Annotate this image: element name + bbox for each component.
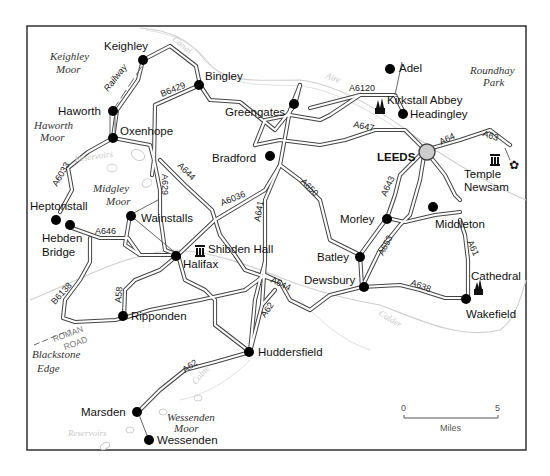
label-a646: A646	[95, 226, 116, 236]
label-ripponden: Ripponden	[131, 310, 187, 322]
town-dot-haworth[interactable]	[108, 106, 118, 116]
label-haworth-moor-1: Haworth	[33, 119, 74, 131]
label-blackstone-1: Blackstone	[32, 348, 80, 360]
town-dot-bradford[interactable]	[265, 151, 275, 161]
label-wessenden: Wessenden	[157, 434, 218, 446]
map: ✿ Keighley Bingley Haworth Oxenhope Gree…	[0, 0, 550, 476]
town-dot-oxenhope[interactable]	[108, 133, 118, 143]
label-heptonstall: Heptonstall	[30, 200, 88, 212]
label-kirkstall-abbey: Kirkstall Abbey	[387, 94, 463, 106]
town-dot-wainstalls[interactable]	[126, 211, 136, 221]
town-dot-huddersfield[interactable]	[244, 347, 254, 357]
town-dot-headingley[interactable]	[398, 109, 408, 119]
kirkstall-abbey-icon	[375, 98, 385, 114]
label-reservoirs-bottom: Reservoirs	[67, 428, 107, 438]
town-dot-heptonstall[interactable]	[51, 215, 61, 225]
label-leeds: LEEDS	[377, 151, 416, 163]
label-newsam: Newsam	[464, 181, 509, 193]
label-middleton: Middleton	[435, 218, 485, 230]
label-oxenhope: Oxenhope	[120, 125, 173, 137]
town-dot-bingley[interactable]	[194, 80, 204, 90]
town-dot-ripponden[interactable]	[118, 311, 128, 321]
scale-unit: Miles	[440, 423, 462, 433]
label-huddersfield: Huddersfield	[258, 346, 323, 358]
label-wakefield: Wakefield	[466, 308, 516, 320]
label-keighley-moor-1: Keighley	[49, 50, 89, 62]
label-reservoirs-top: Reservoirs	[73, 149, 114, 164]
town-dot-marsden[interactable]	[132, 407, 142, 417]
label-marsden: Marsden	[81, 406, 126, 418]
label-a653: A653	[376, 234, 395, 257]
town-dot-wessenden[interactable]	[144, 435, 154, 445]
label-hebden: Hebden	[42, 232, 82, 244]
label-morley: Morley	[340, 213, 375, 225]
label-keighley: Keighley	[104, 40, 148, 52]
label-blackstone-2: Edge	[36, 362, 60, 374]
scale-bar: 0 5 Miles	[401, 403, 500, 433]
label-roundhay-2: Park	[482, 76, 506, 88]
label-a58: A58	[113, 286, 124, 303]
town-dot-dewsbury[interactable]	[359, 282, 369, 292]
label-bridge: Bridge	[42, 246, 75, 258]
label-batley: Batley	[317, 251, 349, 263]
label-keighley-moor-2: Moor	[55, 63, 81, 75]
temple-newsam-house-icon	[490, 154, 500, 166]
label-bingley: Bingley	[205, 70, 243, 82]
label-aire: Aire	[323, 70, 342, 85]
label-temple: Temple	[464, 168, 501, 180]
label-calder: Calder	[377, 308, 404, 329]
label-dewsbury: Dewsbury	[304, 274, 355, 286]
label-midgley-moor-1: Midgley	[92, 182, 129, 194]
town-dot-wakefield[interactable]	[461, 294, 471, 304]
label-wainstalls: Wainstalls	[141, 212, 193, 224]
label-midgley-moor-2: Moor	[105, 195, 131, 207]
label-a629: A629	[160, 174, 170, 195]
temple-newsam-garden-icon: ✿	[509, 158, 519, 172]
label-headingley: Headingley	[410, 108, 468, 120]
town-dot-greengates[interactable]	[289, 99, 299, 109]
label-roundhay-1: Roundhay	[469, 64, 515, 76]
label-haworth: Haworth	[58, 105, 101, 117]
label-shibden-hall: Shibden Hall	[208, 243, 273, 255]
town-dot-hebden-bridge[interactable]	[65, 220, 75, 230]
label-greengates: Greengates	[225, 106, 285, 118]
city-circle-leeds[interactable]	[419, 144, 435, 160]
label-cathedral: Cathedral	[471, 270, 521, 282]
label-halifax: Halifax	[183, 258, 218, 270]
shibden-hall-house-icon	[195, 245, 205, 257]
label-adel: Adel	[399, 62, 422, 74]
scale-end: 5	[495, 403, 500, 413]
town-dot-halifax[interactable]	[171, 251, 181, 261]
town-dot-morley[interactable]	[382, 214, 392, 224]
town-labels: Keighley Bingley Haworth Oxenhope Greeng…	[30, 40, 521, 446]
label-wessenden-moor-2: Moor	[173, 422, 199, 434]
town-dot-adel[interactable]	[385, 64, 395, 74]
town-dot-middleton[interactable]	[428, 202, 438, 212]
town-dot-batley[interactable]	[355, 252, 365, 262]
label-a647: A647	[353, 119, 376, 133]
town-dot-keighley[interactable]	[138, 55, 148, 65]
label-bradford: Bradford	[212, 152, 256, 164]
label-haworth-moor-2: Moor	[39, 131, 65, 143]
label-canal: Canal	[171, 34, 195, 56]
label-a63: A63	[481, 128, 499, 142]
label-railway: Railway	[102, 62, 130, 93]
label-a6120: A6120	[349, 83, 375, 93]
scale-start: 0	[401, 403, 406, 413]
